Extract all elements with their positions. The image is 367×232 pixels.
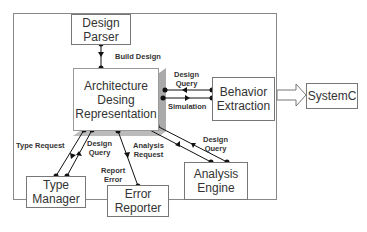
error-reporter-node: Error Reporter: [107, 185, 169, 217]
design-query-type-label: Design Query: [87, 139, 112, 157]
design-query-analysis-label: Design Query: [203, 135, 228, 153]
architecture-node: Architecture Desing Representation: [73, 68, 159, 131]
type-manager-node: Type Manager: [26, 176, 86, 208]
simulation-label: Simulation: [168, 102, 206, 111]
behavior-extraction-node: Behavior Extraction: [212, 77, 275, 121]
analysis-request-label: Analysis Request: [133, 141, 164, 159]
design-query-behavior-label: Design Query: [174, 70, 199, 88]
systemc-node: SystemC: [306, 83, 358, 109]
report-error-label: Report Error: [101, 166, 125, 184]
design-parser-node: Design Parser: [71, 14, 131, 45]
type-request-label: Type Request: [16, 141, 65, 150]
analysis-engine-node: Analysis Engine: [184, 162, 248, 200]
build-design-label: Build Design: [115, 52, 161, 61]
